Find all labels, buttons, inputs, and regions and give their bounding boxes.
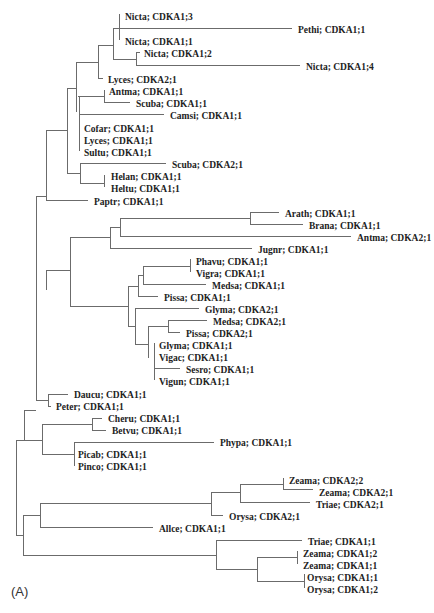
- leaf-label: Jugnr; CDKA1;1: [258, 245, 329, 255]
- leaf-label: Phavu; CDKA1;1: [196, 257, 268, 267]
- leaf-label: Triae; CDKA1;1: [308, 537, 376, 547]
- leaf-label: Antma; CDKA1;1: [109, 87, 183, 97]
- leaf-label: Zeama; CDKA1;2: [303, 549, 377, 559]
- leaf-label: Triae; CDKA2;1: [316, 500, 384, 510]
- leaf-label: Brana; CDKA1;1: [309, 221, 381, 231]
- leaf-label: Peter; CDKA1;1: [56, 402, 124, 412]
- leaf-label: Pethi; CDKA1;1: [298, 25, 366, 35]
- leaf-label: Medsa; CDKA2;1: [213, 317, 286, 327]
- leaf-label: Lyces; CDKA1;1: [84, 136, 153, 146]
- leaf-label: Lyces; CDKA2;1: [108, 75, 177, 85]
- leaf-labels: Nicta; CDKA1;3Pethi; CDKA1;1Nicta; CDKA1…: [56, 12, 431, 595]
- leaf-label: Pinco; CDKA1;1: [78, 462, 147, 472]
- leaf-label: Scuba; CDKA1;1: [136, 99, 207, 109]
- panel-label: (A): [11, 584, 28, 599]
- leaf-label: Zeama; CDKA1;1: [303, 561, 377, 571]
- leaf-label: Antma; CDKA2;1: [357, 233, 431, 243]
- leaf-label: Nicta; CDKA1;3: [125, 12, 193, 22]
- leaf-label: Zeama; CDKA2;1: [319, 488, 393, 498]
- leaf-label: Orysa; CDKA1;1: [307, 573, 378, 583]
- leaf-label: Pissa; CDKA1;1: [164, 293, 231, 303]
- leaf-label: Arath; CDKA1;1: [285, 209, 356, 219]
- leaf-label: Nicta; CDKA1;2: [144, 49, 212, 59]
- phylogenetic-tree: Nicta; CDKA1;3Pethi; CDKA1;1Nicta; CDKA1…: [0, 0, 434, 613]
- leaf-label: Camsi; CDKA1;1: [170, 111, 242, 121]
- leaf-label: Orysa; CDKA1;2: [307, 585, 378, 595]
- leaf-label: Scuba; CDKA2;1: [172, 160, 243, 170]
- leaf-label: Phypa; CDKA1;1: [220, 438, 292, 448]
- leaf-label: Vigac; CDKA1;1: [159, 353, 228, 363]
- leaf-label: Betvu; CDKA1;1: [112, 426, 182, 436]
- leaf-label: Heltu; CDKA1;1: [111, 184, 180, 194]
- leaf-label: Picab; CDKA1;1: [78, 450, 147, 460]
- leaf-label: Daucu; CDKA1;1: [74, 390, 147, 400]
- leaf-label: Zeama; CDKA2;2: [289, 476, 363, 486]
- leaf-label: Nicta; CDKA1;1: [125, 37, 193, 47]
- leaf-label: Helan; CDKA1;1: [111, 172, 182, 182]
- leaf-label: Medsa; CDKA1;1: [212, 281, 285, 291]
- leaf-label: Allce; CDKA1;1: [159, 524, 226, 534]
- leaf-label: Paptr; CDKA1;1: [94, 197, 164, 207]
- leaf-label: Cheru; CDKA1;1: [108, 414, 180, 424]
- leaf-label: Glyma; CDKA1;1: [159, 341, 233, 351]
- leaf-label: Orysa; CDKA2;1: [229, 512, 300, 522]
- leaf-label: Nicta; CDKA1;4: [306, 62, 374, 72]
- leaf-label: Cofar; CDKA1;1: [84, 124, 154, 134]
- leaf-label: Sultu; CDKA1;1: [84, 148, 152, 158]
- leaf-label: Glyma; CDKA2;1: [205, 305, 279, 315]
- leaf-label: Pissa; CDKA2;1: [186, 329, 253, 339]
- leaf-label: Vigra; CDKA1;1: [196, 269, 265, 279]
- leaf-label: Vigun; CDKA1;1: [159, 377, 230, 387]
- leaf-label: Sesro; CDKA1;1: [186, 365, 254, 375]
